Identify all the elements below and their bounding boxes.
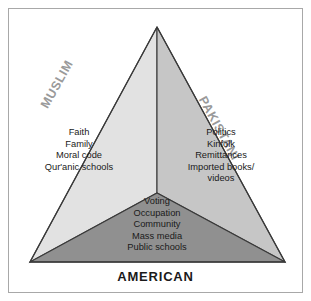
- edge-label-american: AMERICAN: [0, 269, 311, 284]
- region-american-item-list: Voting Occupation Community Mass media P…: [78, 196, 236, 254]
- list-item: Community: [78, 219, 236, 231]
- region-muslim-item-list: Faith Family Moral code Qur'anic schools: [20, 127, 138, 173]
- label-layer: MUSLIM PAKISTANI Faith Family Moral code…: [0, 0, 311, 301]
- list-item: Public schools: [78, 242, 236, 254]
- list-item: Occupation: [78, 208, 236, 220]
- list-item: Voting: [78, 196, 236, 208]
- list-item: Family: [20, 139, 138, 151]
- region-pakistani-item-list: Politics Kinfolk Remittances Imported bo…: [160, 127, 282, 185]
- list-item: videos: [160, 173, 282, 185]
- list-item: Remittances: [160, 150, 282, 162]
- list-item: Moral code: [20, 150, 138, 162]
- list-item: Mass media: [78, 231, 236, 243]
- list-item: Qur'anic schools: [20, 162, 138, 174]
- list-item: Imported books/: [160, 162, 282, 174]
- list-item: Faith: [20, 127, 138, 139]
- edge-label-muslim: MUSLIM: [38, 58, 76, 111]
- list-item: Kinfolk: [160, 139, 282, 151]
- figure-container: MUSLIM PAKISTANI Faith Family Moral code…: [0, 0, 311, 301]
- list-item: Politics: [160, 127, 282, 139]
